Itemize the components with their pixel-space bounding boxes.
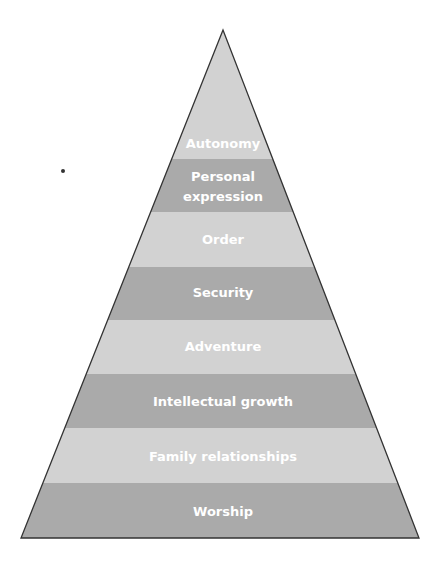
level-label-intellectual-growth: Intellectual growth bbox=[153, 394, 293, 409]
level-label-family-relationships: Family relationships bbox=[149, 449, 297, 464]
level-label-personal: Personal bbox=[191, 169, 255, 184]
level-label-expression: expression bbox=[183, 189, 263, 204]
level-label-worship: Worship bbox=[193, 504, 253, 519]
level-label-security: Security bbox=[193, 285, 254, 300]
level-personal-expression-band bbox=[0, 159, 446, 212]
level-label-adventure: Adventure bbox=[185, 339, 262, 354]
level-label-autonomy: Autonomy bbox=[186, 136, 261, 151]
pyramid-diagram: Autonomy Personal expression Order Secur… bbox=[0, 0, 446, 575]
level-label-order: Order bbox=[202, 232, 245, 247]
